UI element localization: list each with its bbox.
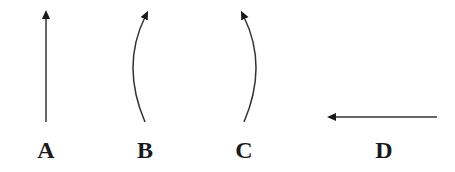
label-b: B [125, 138, 165, 162]
label-a: A [26, 138, 66, 162]
arrow-c [244, 17, 256, 122]
label-d: D [364, 138, 404, 162]
arrow-c-curve [244, 17, 256, 122]
arrow-b-curve [133, 17, 145, 122]
label-c: C [224, 138, 264, 162]
arrow-b [133, 17, 145, 122]
